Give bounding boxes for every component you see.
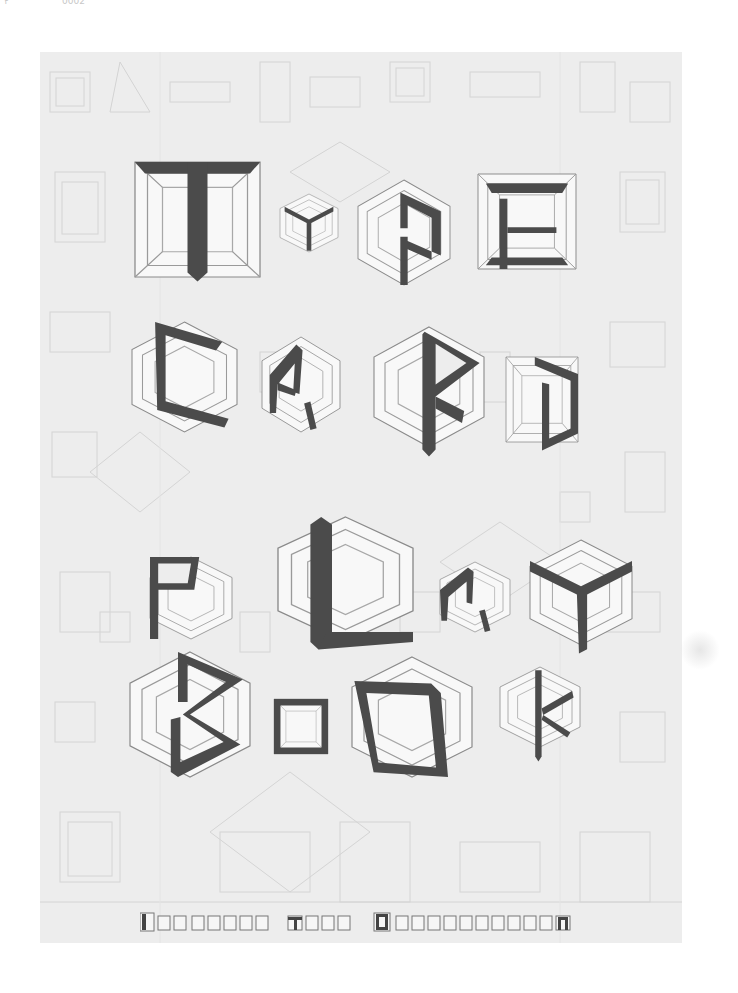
- letter-R: [374, 327, 484, 457]
- letter-C: [132, 322, 237, 432]
- subtitle-cube-letters: [140, 910, 582, 934]
- letter-B: [130, 652, 250, 777]
- letter-L: [278, 517, 413, 650]
- book-cover: Type Card Play Book Dominion Type Organi…: [40, 52, 682, 943]
- letter-T: [135, 162, 260, 282]
- title-cube-letters: [40, 52, 682, 943]
- scan-mark-left: ۲: [4, 0, 9, 6]
- letter-P2: [150, 557, 232, 639]
- letter-O: [352, 657, 472, 777]
- letter-A: [262, 337, 340, 432]
- letter-A2: [440, 562, 510, 632]
- scan-smudge: [680, 630, 720, 670]
- scan-header: ۲ 0002: [0, 0, 738, 8]
- letter-P: [358, 180, 450, 285]
- letter-E: [478, 174, 576, 269]
- letter-o: [274, 699, 328, 754]
- letter-Y: [530, 540, 632, 653]
- scan-mark-right: 0002: [62, 0, 85, 6]
- letter-k: [500, 667, 580, 761]
- letter-y: [280, 194, 338, 252]
- letter-D: [506, 357, 578, 451]
